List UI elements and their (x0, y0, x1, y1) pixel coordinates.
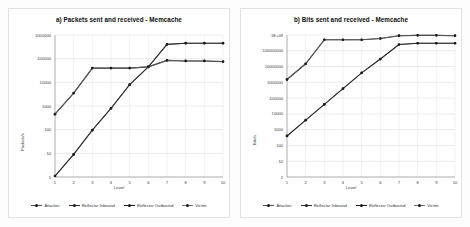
y-tick-label: 10 (46, 151, 51, 156)
x-tick-label: 10 (221, 180, 226, 185)
data-point (129, 67, 131, 69)
legend-label: Attacker (44, 203, 59, 208)
chart-legend-packets: AttackerReflector InboundReflector Outbo… (9, 203, 229, 208)
legend-marker-icon (182, 203, 193, 208)
x-axis-title-packets: Level (9, 185, 229, 190)
data-point (91, 129, 94, 132)
data-point (417, 34, 419, 36)
legend-marker-icon (301, 203, 312, 208)
data-point (54, 175, 57, 178)
data-point (416, 42, 419, 45)
x-tick-label: 3 (91, 180, 94, 185)
legend-item-reflector-outbound[interactable]: Reflector Outbound (124, 203, 173, 208)
y-tick-label: 10 (278, 159, 283, 164)
data-point (222, 61, 224, 63)
series-line (55, 43, 223, 176)
data-point (73, 92, 75, 94)
y-tick-label: 100 (276, 143, 284, 148)
legend-item-reflector-inbound[interactable]: Reflector Inbound (69, 203, 115, 208)
legend-item-victim[interactable]: Victim (414, 203, 438, 208)
data-point (342, 87, 345, 90)
legend-item-attacker[interactable]: Attacker (263, 203, 291, 208)
data-point (435, 34, 437, 36)
x-tick-label: 9 (203, 180, 206, 185)
chart-panel-packets: a) Packets sent and received - Memcache … (8, 8, 230, 218)
x-tick-label: 7 (398, 180, 401, 185)
x-tick-label: 10 (453, 180, 458, 185)
x-tick-label: 8 (417, 180, 420, 185)
series-line (287, 35, 455, 79)
x-tick-label: 9 (435, 180, 438, 185)
legend-label: Victim (195, 203, 206, 208)
x-tick-label: 2 (73, 180, 76, 185)
x-tick-label: 4 (110, 180, 113, 185)
x-tick-label: 1 (286, 180, 289, 185)
y-tick-label: 1000 (274, 127, 284, 132)
data-point (166, 43, 169, 46)
x-tick-label: 7 (166, 180, 169, 185)
chart-panel-bits: b) Bits sent and received - Memcache 110… (240, 8, 462, 218)
y-tick-label: 10000 (272, 111, 284, 116)
y-tick-label: 10000000 (265, 64, 284, 69)
legend-item-reflector-inbound[interactable]: Reflector Inbound (301, 203, 347, 208)
data-point (286, 135, 289, 138)
legend-label: Reflector Inbound (82, 203, 115, 208)
data-point (398, 35, 400, 37)
data-point (203, 42, 206, 45)
legend-label: Reflector Outbound (137, 203, 173, 208)
series-line (55, 43, 223, 176)
data-point (166, 59, 168, 61)
x-tick-label: 5 (129, 180, 132, 185)
x-tick-label: 4 (342, 180, 345, 185)
data-point (184, 42, 187, 45)
y-tick-label: 1 (281, 175, 284, 180)
y-tick-label: 1000 (42, 104, 52, 109)
x-tick-label: 6 (379, 180, 382, 185)
data-point (435, 42, 438, 45)
legend-marker-icon (356, 203, 367, 208)
x-tick-label: 8 (185, 180, 188, 185)
x-tick-label: 2 (305, 180, 308, 185)
legend-label: Victim (427, 203, 438, 208)
data-point (379, 37, 381, 39)
data-point (110, 67, 112, 69)
x-tick-label: 5 (361, 180, 364, 185)
y-tick-label: 100000000 (263, 48, 284, 53)
x-tick-label: 1 (54, 180, 57, 185)
data-point (304, 119, 307, 122)
chart-legend-bits: AttackerReflector InboundReflector Outbo… (241, 203, 461, 208)
y-tick-label: 1000000 (35, 33, 52, 38)
data-point (222, 42, 225, 45)
data-point (286, 78, 288, 80)
figure-container: a) Packets sent and received - Memcache … (0, 0, 470, 227)
legend-label: Reflector Inbound (314, 203, 347, 208)
series-line (287, 35, 455, 79)
data-point (342, 39, 344, 41)
legend-label: Reflector Outbound (369, 203, 405, 208)
data-point (72, 153, 75, 156)
series-line (287, 43, 455, 136)
y-tick-label: 10000 (40, 80, 52, 85)
legend-item-reflector-outbound[interactable]: Reflector Outbound (356, 203, 405, 208)
y-tick-label: 1E+09 (271, 33, 284, 38)
data-point (454, 42, 457, 45)
data-point (203, 60, 205, 62)
legend-item-attacker[interactable]: Attacker (31, 203, 59, 208)
y-tick-label: 1 (49, 175, 52, 180)
y-tick-label: 1000000 (267, 80, 284, 85)
y-tick-label: 100000 (37, 56, 51, 61)
data-point (91, 67, 93, 69)
data-point (361, 39, 363, 41)
data-point (185, 60, 187, 62)
legend-marker-icon (69, 203, 80, 208)
legend-item-victim[interactable]: Victim (182, 203, 206, 208)
y-axis-title-packets: Packets/s (20, 133, 25, 151)
legend-marker-icon (31, 203, 42, 208)
data-point (360, 71, 363, 74)
x-axis-title-bits: Level (241, 185, 461, 190)
data-point (379, 58, 382, 61)
data-point (323, 103, 326, 106)
x-tick-label: 6 (147, 180, 150, 185)
y-tick-label: 100000 (269, 96, 283, 101)
legend-marker-icon (263, 203, 274, 208)
